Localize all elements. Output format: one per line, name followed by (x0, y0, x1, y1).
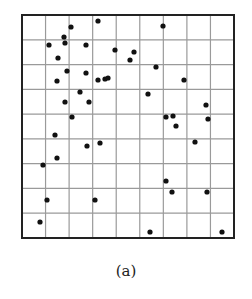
data-point (92, 197, 97, 202)
data-point (68, 24, 73, 29)
data-point (127, 57, 132, 62)
data-point (95, 18, 100, 23)
data-point (61, 34, 66, 39)
data-point (86, 99, 91, 104)
data-point (40, 162, 45, 167)
data-point (203, 102, 208, 107)
data-point (44, 197, 49, 202)
data-point (46, 42, 51, 47)
data-point (192, 139, 197, 144)
data-point (37, 219, 42, 224)
data-point (170, 113, 175, 118)
data-point (145, 91, 150, 96)
grid-lines (22, 15, 234, 238)
data-point (160, 23, 165, 28)
data-point (131, 49, 136, 54)
data-point (163, 178, 168, 183)
data-point (62, 99, 67, 104)
data-point (83, 42, 88, 47)
data-point (204, 189, 209, 194)
data-point (64, 68, 69, 73)
data-point (153, 64, 158, 69)
data-point (163, 114, 168, 119)
data-point (54, 78, 59, 83)
data-point (52, 132, 57, 137)
data-point (181, 77, 186, 82)
data-point (84, 143, 89, 148)
data-point (205, 116, 210, 121)
data-point (95, 77, 100, 82)
data-point (55, 55, 60, 60)
data-point (83, 70, 88, 75)
figure-caption: (a) (0, 262, 252, 280)
data-point (147, 229, 152, 234)
scatter-plot (0, 0, 252, 250)
data-point (69, 114, 74, 119)
data-point (219, 229, 224, 234)
data-point (62, 40, 67, 45)
data-point (105, 75, 110, 80)
data-point (112, 47, 117, 52)
data-point (54, 155, 59, 160)
plot-frame (22, 15, 234, 238)
data-points (37, 18, 224, 234)
data-point (77, 89, 82, 94)
data-point (97, 140, 102, 145)
data-point (173, 123, 178, 128)
data-point (169, 189, 174, 194)
